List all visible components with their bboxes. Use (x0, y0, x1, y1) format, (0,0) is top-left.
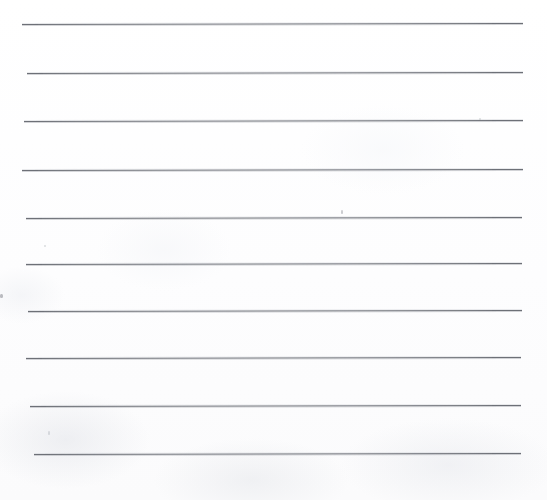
ruled-line (34, 453, 521, 455)
ruled-line (27, 72, 523, 74)
scan-speck (44, 245, 46, 247)
ruled-line (24, 120, 523, 122)
ruled-line (26, 263, 522, 265)
ruled-line (26, 357, 521, 359)
scan-speck (479, 118, 481, 120)
paper-sheet (0, 0, 547, 500)
scan-speck (341, 210, 343, 214)
ruled-line (22, 23, 523, 25)
scan-speck (48, 431, 50, 435)
scan-speck (0, 294, 3, 298)
scanned-page (0, 0, 547, 500)
ruled-line (28, 310, 522, 312)
ruled-line (26, 217, 522, 219)
ruled-line (30, 405, 521, 407)
ruled-line (22, 169, 523, 171)
